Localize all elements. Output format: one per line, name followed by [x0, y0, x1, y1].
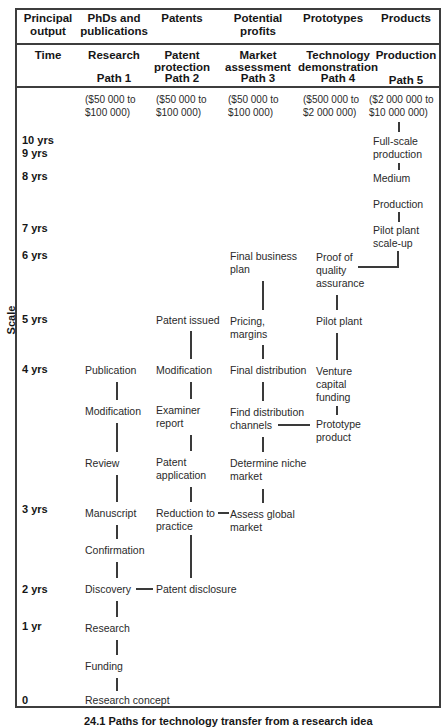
path4-label: Path 4 [321, 72, 356, 84]
header-divider-1 [17, 43, 441, 45]
path1-title: Research [88, 49, 140, 61]
path1-label: Path 1 [97, 72, 132, 84]
scale-axis-label: Scale [5, 300, 17, 340]
milestone-final-business-plan: Final business plan [230, 250, 297, 276]
connector-quality-scaleup [358, 266, 399, 268]
header-time: Time [35, 49, 62, 61]
connector-line [116, 475, 118, 502]
cost-path5: ($2 000 000 to $10 000 000) [369, 93, 434, 119]
time-8yrs: 8 yrs [22, 170, 48, 183]
milestone-patent-application: Patent application [156, 456, 206, 482]
connector-line [190, 435, 192, 451]
milestone-determine-niche-market: Determine niche market [230, 457, 306, 483]
connector-line [262, 489, 264, 503]
connector-line [190, 382, 192, 399]
connector-line [116, 525, 118, 539]
header-products: Products [381, 12, 431, 25]
milestone-modification-p1: Modification [85, 405, 141, 418]
milestone-find-distribution-channels: Find distribution channels [230, 406, 304, 432]
milestone-pricing-margins: Pricing, margins [230, 315, 267, 341]
connector-line [336, 406, 338, 415]
milestone-publication: Publication [85, 364, 136, 377]
milestone-review: Review [85, 457, 119, 470]
connector-line [398, 212, 400, 222]
milestone-manuscript: Manuscript [85, 507, 136, 520]
cost-path4: ($500 000 to $2 000 000) [303, 93, 359, 119]
milestone-pilot-plant-scale-up: Pilot plant scale-up [373, 224, 419, 250]
milestone-venture-capital-funding: Venture capital funding [316, 365, 352, 404]
connector-line [262, 281, 264, 310]
path2-title: Patent protection [154, 49, 210, 73]
connector-line [190, 535, 192, 578]
path3-title: Market assessment [225, 49, 291, 73]
connector-line [116, 562, 118, 578]
path2-label: Path 2 [165, 72, 200, 84]
header-patents: Patents [161, 12, 203, 25]
connector-line [116, 640, 118, 655]
connector-line [398, 163, 400, 170]
time-4yrs: 4 yrs [22, 363, 48, 376]
milestone-medium: Medium [373, 172, 410, 185]
time-5yrs: 5 yrs [22, 313, 48, 326]
connector-line [336, 333, 338, 360]
time-6yrs: 6 yrs [22, 249, 48, 262]
connector-line [262, 382, 264, 401]
milestone-research-concept: Research concept [85, 694, 170, 707]
milestone-confirmation: Confirmation [85, 544, 145, 557]
connector-reduction-assess [218, 512, 229, 514]
header-divider-2 [17, 86, 441, 88]
header-potential-profits: Potential profits [234, 12, 283, 38]
milestone-full-scale-production: Full-scale production [373, 135, 422, 161]
cost-path1: ($50 000 to $100 000) [85, 93, 136, 119]
milestone-examiner-report: Examiner report [156, 404, 200, 430]
connector-line [116, 678, 118, 691]
connector-line [398, 122, 400, 132]
time-9yrs: 9 yrs [22, 147, 48, 160]
milestone-final-distribution: Final distribution [230, 364, 306, 377]
connector-line [262, 345, 264, 359]
milestone-pilot-plant: Pilot plant [316, 315, 362, 328]
time-3yrs: 3 yrs [22, 503, 48, 516]
path5-label: Path 5 [389, 74, 424, 86]
connector-line [116, 423, 118, 452]
time-2yrs: 2 yrs [22, 583, 48, 596]
milestone-modification-p2: Modification [156, 364, 212, 377]
cost-path2: ($50 000 to $100 000) [156, 93, 207, 119]
time-10yrs: 10 yrs [22, 134, 54, 147]
connector-channels-prototype [278, 424, 310, 426]
milestone-research: Research [85, 622, 130, 635]
figure-caption: 24.1 Paths for technology transfer from … [84, 715, 373, 728]
connector-line [190, 487, 192, 502]
path3-label: Path 3 [241, 72, 276, 84]
connector-line [336, 295, 338, 310]
path4-title: Technology demonstration [298, 49, 378, 73]
milestone-production: Production [373, 198, 423, 211]
connector-line [116, 601, 118, 617]
connector-line [116, 382, 118, 400]
time-7yrs: 7 yrs [22, 222, 48, 235]
time-0: 0 [22, 694, 28, 707]
milestone-discovery: Discovery [85, 583, 131, 596]
cost-path3: ($50 000 to $100 000) [228, 93, 279, 119]
connector-discovery-disclosure [136, 588, 153, 590]
connector-line [190, 331, 192, 359]
milestone-patent-issued: Patent issued [156, 314, 220, 327]
header-principal-output: Principal output [24, 12, 73, 38]
header-prototypes: Prototypes [303, 12, 363, 25]
milestone-patent-disclosure: Patent disclosure [156, 583, 237, 596]
milestone-reduction-to-practice: Reduction to practice [156, 507, 215, 533]
time-1yr: 1 yr [22, 620, 42, 633]
path5-title: Production [376, 49, 437, 61]
header-phds-publications: PhDs and publications [80, 12, 148, 38]
connector-line [262, 437, 264, 452]
milestone-prototype-product: Prototype product [316, 418, 361, 444]
milestone-funding: Funding [85, 660, 123, 673]
milestone-assess-global-market: Assess global market [230, 508, 295, 534]
milestone-proof-of-quality-assurance: Proof of quality assurance [316, 251, 364, 290]
